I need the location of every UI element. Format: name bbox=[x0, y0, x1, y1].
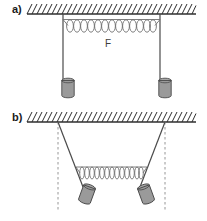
physics-figure: a) bbox=[0, 0, 207, 221]
panel-b-ceiling bbox=[27, 112, 196, 122]
panel-b: b) bbox=[12, 111, 196, 212]
panel-a-mass-right bbox=[159, 78, 171, 98]
panel-b-mass-right bbox=[137, 183, 155, 206]
panel-b-label: b) bbox=[12, 111, 23, 123]
panel-a-label: a) bbox=[12, 3, 22, 15]
panel-b-spring bbox=[76, 167, 147, 179]
panel-b-string-left bbox=[58, 122, 83, 187]
force-label-F: F bbox=[105, 38, 111, 49]
panel-b-string-right bbox=[140, 122, 165, 187]
panel-a-spring bbox=[63, 20, 160, 33]
hatched-ceiling-icon bbox=[27, 4, 196, 14]
panel-b-mass-left bbox=[78, 183, 96, 206]
hatched-ceiling-icon bbox=[27, 112, 196, 122]
panel-a-mass-left bbox=[62, 78, 74, 98]
figure-canvas: a) bbox=[0, 0, 207, 221]
panel-a-ceiling bbox=[27, 4, 196, 14]
panel-a: a) bbox=[12, 3, 196, 98]
